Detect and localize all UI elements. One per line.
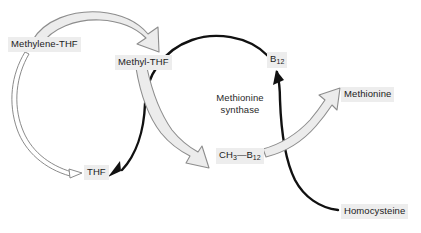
node-methionine: Methionine (341, 87, 394, 102)
enzyme-label-line-1: Methionine (196, 92, 284, 104)
ch3-letters: CH (219, 149, 233, 160)
node-ch3-b12: CH3—B12 (216, 148, 264, 164)
node-b12: B12 (267, 52, 287, 68)
ch3-subscript: 3 (233, 154, 237, 161)
edge-methylene-thf-to-thf (12, 52, 82, 178)
diagram-canvas: Methylene-THF Methyl-THF THF B12 CH3—B12… (0, 0, 421, 233)
node-methyl-thf: Methyl-THF (115, 55, 172, 70)
edge-methyl-thf-to-ch3-b12 (136, 68, 209, 168)
ch3-b12-letter: B (246, 149, 252, 160)
edge-homocysteine-to-b12 (273, 70, 338, 210)
bond-dash: — (237, 149, 247, 160)
node-homocysteine: Homocysteine (341, 204, 408, 219)
node-methylene-thf: Methylene-THF (8, 37, 81, 52)
node-thf: THF (84, 165, 109, 180)
diagram-artwork (0, 0, 421, 233)
enzyme-label: Methionine synthase (196, 92, 284, 116)
ch3-b12-subscript: 12 (253, 154, 261, 161)
b12-subscript: 12 (276, 58, 284, 65)
enzyme-label-line-2: synthase (196, 104, 284, 116)
